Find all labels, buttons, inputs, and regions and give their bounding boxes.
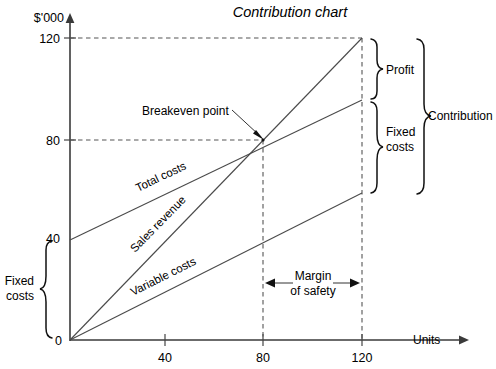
y-axis-arrow-icon bbox=[66, 13, 75, 23]
x-tick-label-80: 80 bbox=[256, 351, 270, 365]
fixed-costs-right-brace bbox=[371, 102, 383, 193]
fixed-costs-right-label-line2: costs bbox=[386, 140, 414, 154]
margin-of-safety-left-arrow-icon bbox=[265, 279, 275, 288]
breakeven-point-marker bbox=[261, 138, 264, 141]
x-tick-label-40: 40 bbox=[158, 351, 172, 365]
series-line-total-costs bbox=[70, 100, 362, 240]
margin-of-safety-label-line1: Margin bbox=[295, 269, 332, 283]
y-tick-label-80: 80 bbox=[46, 134, 60, 148]
breakeven-label: Breakeven point bbox=[142, 104, 229, 118]
series-line-variable-costs bbox=[70, 193, 362, 340]
chart-title: Contribution chart bbox=[233, 4, 348, 20]
y-tick-label-0: 0 bbox=[55, 334, 62, 348]
fixed-costs-left-label-line1: Fixed bbox=[5, 274, 34, 288]
fixed-costs-left-label-line2: costs bbox=[6, 289, 34, 303]
y-tick-label-120: 120 bbox=[39, 32, 60, 46]
y-axis-unit-label: $'000 bbox=[34, 11, 64, 25]
contribution-label: Contribution bbox=[428, 109, 493, 123]
x-axis-label: Units bbox=[413, 333, 440, 347]
series-label-sales-revenue: Sales revenue bbox=[128, 193, 188, 254]
fixed-costs-left-brace bbox=[40, 241, 52, 338]
x-axis-arrow-icon bbox=[459, 336, 469, 345]
profit-brace bbox=[371, 39, 383, 99]
x-tick-label-120: 120 bbox=[352, 351, 373, 365]
series-label-total-costs: Total costs bbox=[134, 159, 188, 193]
chart-canvas: Contribution chart $'000 Units 120 80 40… bbox=[0, 0, 496, 369]
contribution-chart-figure: Contribution chart $'000 Units 120 80 40… bbox=[0, 0, 496, 369]
y-axis bbox=[66, 13, 75, 341]
margin-of-safety-label-line2: of safety bbox=[290, 284, 335, 298]
series-label-variable-costs: Variable costs bbox=[129, 255, 198, 298]
x-axis bbox=[70, 336, 469, 345]
fixed-costs-right-label-line1: Fixed bbox=[386, 125, 415, 139]
profit-label: Profit bbox=[386, 63, 415, 77]
margin-of-safety-right-arrow-icon bbox=[350, 279, 360, 288]
